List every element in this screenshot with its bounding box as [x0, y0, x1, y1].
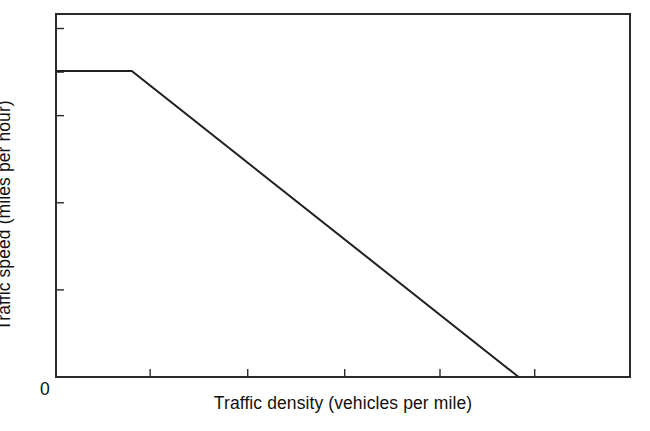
plot-area	[0, 0, 650, 431]
y-axis-ticks	[56, 29, 64, 290]
chart-figure: Traffic speed (miles per hour) 0 Traffic…	[0, 0, 650, 431]
x-axis-ticks	[150, 369, 535, 377]
plot-frame	[56, 14, 630, 377]
speed-density-curve	[56, 71, 519, 377]
x-axis-origin-label: 0	[40, 379, 50, 400]
x-axis-label: Traffic density (vehicles per mile)	[56, 393, 630, 414]
